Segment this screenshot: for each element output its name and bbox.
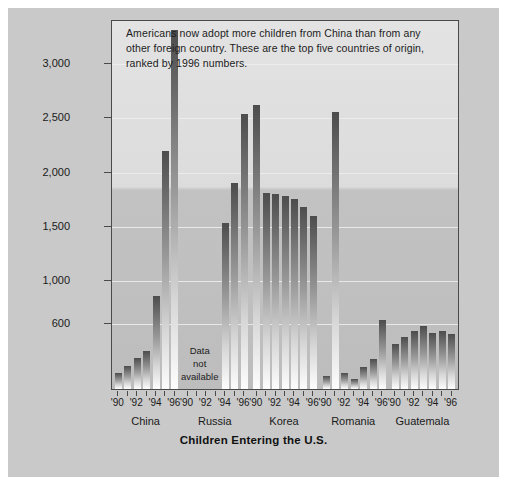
x-year-label: '94 (356, 397, 369, 408)
x-tick-mark (381, 391, 382, 396)
x-tick-mark (275, 391, 276, 396)
x-tick-mark (441, 391, 442, 396)
x-year-label: '90 (180, 397, 193, 408)
plot-inner: Datanotavailable (112, 21, 458, 389)
na-line: Data (190, 344, 210, 357)
bar (332, 112, 339, 389)
x-tick-mark (265, 391, 266, 396)
data-not-available-note: Datanotavailable (181, 311, 219, 389)
x-group-label: Korea (269, 415, 298, 427)
y-tick-label: 1,500 (42, 220, 70, 232)
x-tick-mark (174, 391, 175, 396)
y-tick-label: 1,000 (42, 274, 70, 286)
bar (115, 373, 122, 389)
y-tick-label: 600 (52, 317, 70, 329)
y-tick-label: 2,000 (42, 166, 70, 178)
x-year-label: '96 (167, 397, 180, 408)
bar (272, 194, 279, 389)
x-year-label: '92 (406, 397, 419, 408)
bar (153, 296, 160, 389)
x-tick-mark (215, 391, 216, 396)
x-year-label: '96 (236, 397, 249, 408)
bar (253, 105, 260, 389)
x-tick-mark (155, 391, 156, 396)
y-axis: 6001,0001,5002,0002,5003,000 (8, 8, 111, 390)
na-line: not (193, 357, 206, 370)
bar (341, 373, 348, 389)
bar (411, 331, 418, 389)
x-year-label: '90 (249, 397, 262, 408)
y-tick-label: 3,000 (42, 57, 70, 69)
x-tick-mark (243, 391, 244, 396)
x-year-label: '92 (268, 397, 281, 408)
bar (379, 320, 386, 389)
bar (392, 344, 399, 389)
x-group-label: Romania (331, 415, 375, 427)
x-year-label: '90 (318, 397, 331, 408)
x-tick-mark (234, 391, 235, 396)
x-year-label: '92 (199, 397, 212, 408)
x-tick-mark (224, 391, 225, 396)
x-year-label: '92 (337, 397, 350, 408)
x-year-label: '96 (444, 397, 457, 408)
plot-area: Datanotavailable (111, 20, 459, 390)
x-year-label: '94 (148, 397, 161, 408)
x-year-label: '92 (130, 397, 143, 408)
x-tick-mark (394, 391, 395, 396)
bar (171, 30, 178, 389)
y-tick-label: 2,500 (42, 111, 70, 123)
bar (439, 331, 446, 389)
bar (448, 334, 455, 389)
x-tick-mark (432, 391, 433, 396)
bar (401, 337, 408, 389)
bar (263, 193, 270, 389)
bar (300, 207, 307, 389)
x-tick-mark (205, 391, 206, 396)
bar (370, 359, 377, 389)
x-tick-mark (312, 391, 313, 396)
caption-text: Americans now adopt more children from C… (126, 26, 426, 71)
bar (241, 114, 248, 389)
x-tick-mark (146, 391, 147, 396)
gridline (112, 118, 458, 119)
x-tick-mark (256, 391, 257, 396)
x-tick-mark (303, 391, 304, 396)
bar (429, 333, 436, 389)
figure-panel: 6001,0001,5002,0002,5003,000 Datanotavai… (8, 8, 499, 477)
x-year-label: '96 (306, 397, 319, 408)
bar (420, 326, 427, 389)
x-tick-mark (284, 391, 285, 396)
x-year-label: '94 (218, 397, 231, 408)
x-year-label: '94 (425, 397, 438, 408)
x-tick-mark (187, 391, 188, 396)
bar (134, 358, 141, 389)
x-tick-mark (325, 391, 326, 396)
x-tick-mark (413, 391, 414, 396)
bar (162, 151, 169, 389)
bar (282, 196, 289, 389)
bar (310, 216, 317, 389)
x-group-label: Russia (198, 415, 232, 427)
x-tick-mark (353, 391, 354, 396)
x-tick-mark (136, 391, 137, 396)
bar (323, 376, 330, 389)
x-year-label: '90 (111, 397, 124, 408)
x-tick-mark (293, 391, 294, 396)
x-tick-mark (404, 391, 405, 396)
x-group-label: Guatemala (395, 415, 449, 427)
bar (222, 223, 229, 389)
x-year-label: '96 (375, 397, 388, 408)
bar (143, 351, 150, 389)
x-tick-mark (422, 391, 423, 396)
bar (360, 367, 367, 389)
x-tick-mark (164, 391, 165, 396)
x-group-label: China (131, 415, 160, 427)
x-year-label: '90 (388, 397, 401, 408)
x-year-label: '94 (287, 397, 300, 408)
bar (231, 183, 238, 389)
bar (351, 379, 358, 389)
x-tick-mark (196, 391, 197, 396)
bar (291, 199, 298, 389)
x-tick-mark (344, 391, 345, 396)
x-tick-mark (372, 391, 373, 396)
